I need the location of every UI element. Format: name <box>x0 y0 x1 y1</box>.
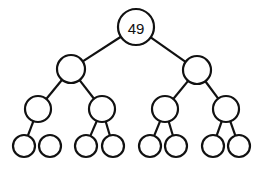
node-circle <box>39 135 61 157</box>
tree-edge-lr-lrr <box>106 121 110 135</box>
tree-edge-rr-rrl <box>217 121 222 135</box>
tree-node-llr <box>39 135 61 157</box>
tree-edge-root-l <box>83 37 121 62</box>
tree-root-node: 49 <box>118 9 154 45</box>
tree-edge-rr-rrr <box>230 121 235 135</box>
node-circle <box>228 135 250 157</box>
tree-node-rrl <box>202 135 224 157</box>
tree-node-lll <box>13 135 35 157</box>
node-circle <box>213 96 239 122</box>
node-circle <box>102 135 124 157</box>
node-circle <box>57 55 85 83</box>
tree-edge-r-rl <box>173 81 188 99</box>
binary-tree-diagram: 49 <box>0 0 270 171</box>
node-label: 49 <box>128 20 145 37</box>
node-circle <box>202 135 224 157</box>
tree-edge-l-ll <box>46 80 62 99</box>
tree-node-lrl <box>75 135 97 157</box>
tree-edge-ll-lll <box>28 121 34 136</box>
tree-edge-rl-rll <box>154 121 160 136</box>
tree-edge-root-r <box>151 37 186 62</box>
node-circle <box>152 96 178 122</box>
tree-node-rl <box>152 96 178 122</box>
tree-edge-lr-lrl <box>90 121 96 136</box>
node-circle <box>183 56 211 84</box>
tree-node-rr <box>213 96 239 122</box>
node-circle <box>13 135 35 157</box>
tree-node-rlr <box>165 135 187 157</box>
tree-node-lr <box>89 96 115 122</box>
tree-node-lrr <box>102 135 124 157</box>
tree-node-ll <box>25 96 51 122</box>
tree-node-l <box>57 55 85 83</box>
tree-edges <box>28 37 235 136</box>
tree-node-r <box>183 56 211 84</box>
tree-node-rll <box>139 135 161 157</box>
tree-edge-r-rr <box>205 81 218 98</box>
tree-edge-rl-rlr <box>169 121 173 135</box>
node-circle <box>89 96 115 122</box>
tree-edge-l-lr <box>80 80 94 99</box>
tree-node-rrr <box>228 135 250 157</box>
node-circle <box>25 96 51 122</box>
node-circle <box>139 135 161 157</box>
node-circle <box>75 135 97 157</box>
node-circle <box>165 135 187 157</box>
tree-nodes: 49 <box>13 9 250 157</box>
